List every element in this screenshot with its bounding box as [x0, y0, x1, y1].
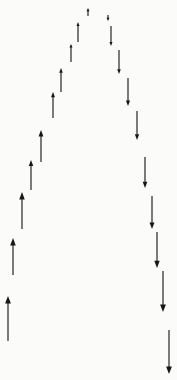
- figure-root: Arrow Peak Diagram: [0, 0, 177, 380]
- arrow-peak-chart: [0, 0, 177, 380]
- chart-background: [0, 0, 177, 380]
